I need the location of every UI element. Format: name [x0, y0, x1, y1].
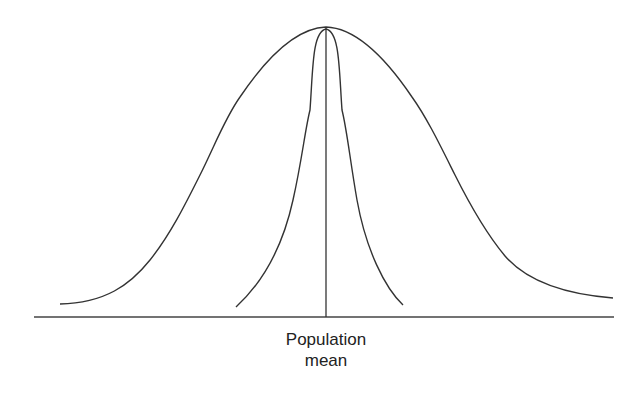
wide-distribution-curve [60, 27, 613, 304]
axis-label-mean: mean [226, 350, 426, 371]
narrow-distribution-curve [236, 29, 403, 307]
axis-label-population: Population [226, 329, 426, 350]
